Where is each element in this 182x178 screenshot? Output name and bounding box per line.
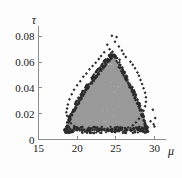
- data-point: [86, 104, 89, 107]
- data-point: [119, 88, 122, 91]
- data-point: [97, 103, 100, 106]
- data-point: [118, 80, 121, 83]
- data-point: [97, 84, 100, 87]
- data-point: [111, 94, 114, 97]
- data-point-outlier: [94, 61, 97, 64]
- data-point: [112, 80, 115, 83]
- data-point-outlier: [114, 40, 117, 43]
- data-point: [102, 119, 105, 122]
- data-point: [97, 79, 100, 82]
- data-point: [89, 115, 92, 118]
- data-point: [131, 100, 134, 103]
- data-point: [117, 114, 120, 117]
- data-point: [97, 105, 100, 108]
- data-point: [99, 99, 102, 102]
- data-point: [80, 101, 83, 104]
- data-point-outlier: [144, 91, 147, 94]
- data-point: [113, 107, 116, 110]
- data-point: [128, 114, 131, 117]
- data-point: [97, 93, 100, 96]
- data-point: [95, 84, 98, 87]
- data-point-outlier: [82, 75, 85, 78]
- data-point: [85, 120, 88, 123]
- data-point-outlier: [141, 83, 144, 86]
- data-point-outlier: [122, 53, 125, 56]
- data-point: [113, 102, 116, 105]
- data-point: [113, 77, 116, 80]
- data-point: [110, 68, 113, 71]
- data-point: [102, 107, 105, 110]
- x-tick-label: 25: [110, 142, 122, 154]
- data-point-outlier: [120, 49, 123, 52]
- data-point: [113, 123, 116, 126]
- data-point-outlier: [91, 64, 94, 67]
- data-point: [105, 111, 108, 114]
- data-point: [120, 91, 123, 94]
- data-point: [112, 89, 115, 92]
- data-point-outlier: [79, 80, 82, 83]
- data-point: [94, 107, 97, 110]
- data-point: [135, 117, 138, 120]
- data-point-outlier: [139, 78, 142, 81]
- data-point-outlier: [70, 93, 73, 96]
- x-axis-ticks: 15202530: [33, 136, 160, 154]
- data-point: [90, 121, 93, 124]
- data-point-outlier: [137, 74, 140, 77]
- data-point: [98, 119, 101, 122]
- data-point: [123, 88, 126, 91]
- data-point: [103, 95, 106, 98]
- data-point-outlier: [136, 71, 139, 74]
- data-point: [123, 120, 126, 123]
- data-point: [115, 81, 118, 84]
- y-axis-ticks: 00.020.040.060.08: [15, 30, 42, 145]
- data-point: [124, 103, 127, 106]
- data-point: [125, 116, 128, 119]
- data-point-outlier: [88, 68, 91, 71]
- data-point: [107, 95, 110, 98]
- data-point: [83, 97, 86, 100]
- data-point: [77, 120, 80, 123]
- y-tick-label: 0.04: [15, 82, 35, 94]
- y-tick-label: 0.06: [15, 56, 35, 68]
- data-point: [85, 116, 88, 119]
- data-point: [114, 110, 117, 113]
- data-point: [110, 82, 113, 85]
- data-point-outlier: [144, 105, 147, 108]
- data-point: [110, 71, 113, 74]
- data-point-outlier: [149, 120, 152, 123]
- data-point: [127, 121, 130, 124]
- data-point: [81, 112, 84, 115]
- data-point: [114, 93, 117, 96]
- data-point: [116, 111, 119, 114]
- data-point-outlier: [65, 111, 68, 114]
- data-point: [88, 100, 91, 103]
- data-point: [99, 109, 102, 112]
- data-point: [105, 114, 108, 117]
- y-tick-label: 0.08: [15, 30, 35, 42]
- data-point: [130, 121, 133, 124]
- data-point: [123, 84, 126, 87]
- data-point-outlier: [153, 125, 156, 128]
- data-point: [109, 77, 112, 80]
- data-point-outlier: [68, 98, 71, 101]
- data-point-outlier: [76, 84, 79, 87]
- data-point-outlier: [142, 87, 145, 90]
- data-point: [135, 111, 138, 114]
- data-point: [125, 123, 128, 126]
- data-point: [100, 80, 103, 83]
- data-point: [105, 86, 108, 89]
- data-point: [92, 119, 95, 122]
- data-point: [97, 116, 100, 119]
- x-tick-label: 20: [72, 142, 84, 154]
- data-point: [95, 88, 98, 91]
- data-point: [129, 110, 132, 113]
- data-point: [119, 107, 122, 110]
- data-point: [109, 64, 112, 67]
- data-point: [116, 74, 119, 77]
- data-point: [108, 98, 111, 101]
- data-point: [78, 105, 81, 108]
- data-point: [84, 108, 87, 111]
- data-point: [79, 116, 82, 119]
- data-point: [104, 74, 107, 77]
- data-point: [128, 124, 131, 127]
